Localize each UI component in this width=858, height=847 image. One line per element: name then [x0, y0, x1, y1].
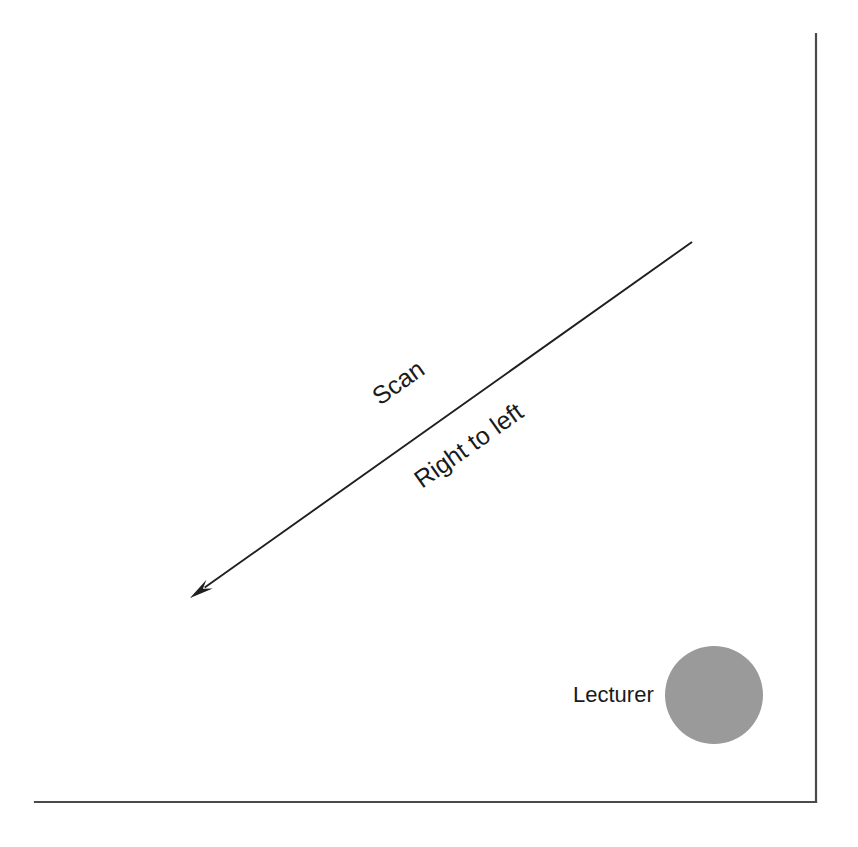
scan-label: Scan	[367, 354, 430, 410]
diagram-canvas: Scan Right to left Lecturer	[0, 0, 858, 847]
scan-arrow-head-icon	[190, 580, 213, 598]
lecturer-circle-marker	[665, 646, 763, 744]
scan-direction-arrow	[190, 242, 692, 598]
scan-arrow-shaft	[205, 242, 692, 588]
diagram-root: Scan Right to left Lecturer	[0, 0, 858, 847]
scan-direction-label: Right to left	[409, 397, 528, 493]
lecturer-label: Lecturer	[573, 682, 654, 707]
